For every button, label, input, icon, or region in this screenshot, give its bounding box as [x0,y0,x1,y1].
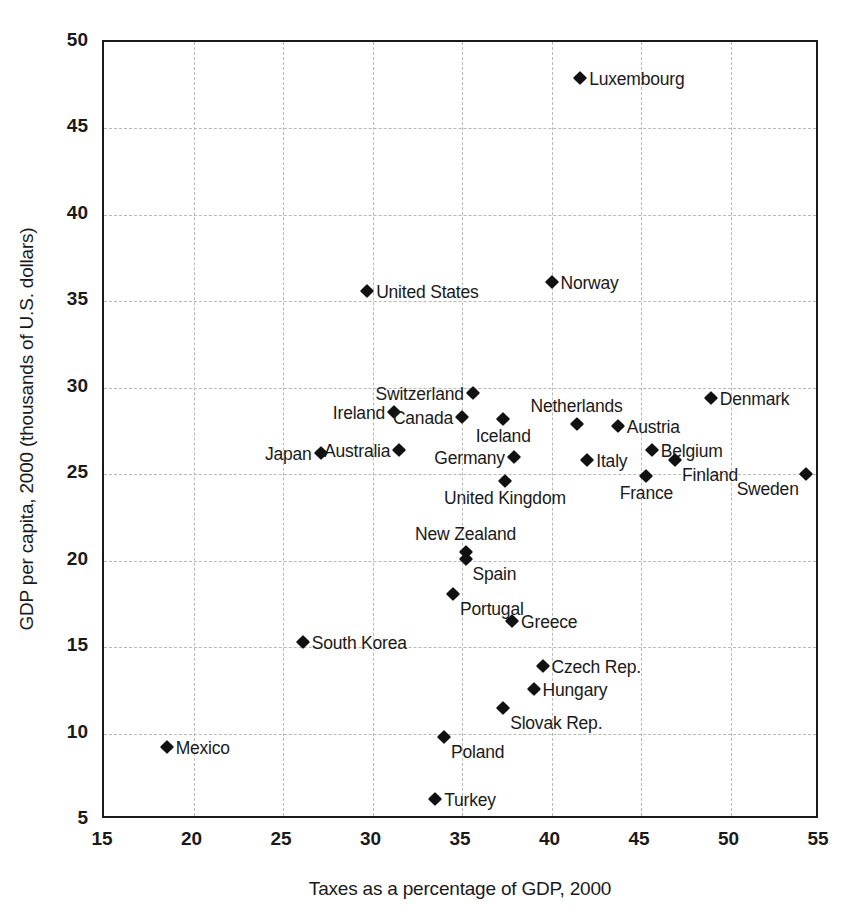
y-tick-label: 5 [44,807,88,829]
gridline-horizontal [104,647,816,648]
data-point-label: Czech Rep. [552,659,641,677]
data-point-label: Denmark [720,391,790,409]
x-tick-label: 30 [346,828,396,850]
y-tick-label: 15 [44,634,88,656]
data-point-label: Austria [627,419,680,437]
x-tick-label: 35 [435,828,485,850]
x-tick-label: 15 [77,828,127,850]
data-point-label: Mexico [176,740,230,758]
data-point-label: Canada [393,410,453,428]
diamond-marker-icon [645,443,659,457]
x-tick-label: 55 [793,828,843,850]
data-point-label: United States [376,284,478,302]
diamond-marker-icon [496,412,510,426]
x-axis-title: Taxes as a percentage of GDP, 2000 [102,878,818,900]
x-tick-label: 25 [256,828,306,850]
y-tick-label: 40 [44,202,88,224]
diamond-marker-icon [535,659,549,673]
plot-area: LuxembourgNorwayUnited StatesDenmarkSwit… [102,40,818,818]
data-point-label: South Korea [312,635,407,653]
data-point-label: France [620,485,673,503]
scatter-plot-figure: GDP per capita, 2000 (thousands of U.S. … [0,0,857,923]
gridline-vertical [552,42,553,816]
data-point-label: Luxembourg [589,71,684,89]
data-point-label: Germany [434,450,505,468]
y-tick-label: 45 [44,115,88,137]
data-point-label: Slovak Rep. [510,715,602,733]
data-point-label: Poland [451,744,504,762]
gridline-horizontal [104,734,816,735]
data-point-label: Sweden [737,481,799,499]
diamond-marker-icon [360,284,374,298]
y-tick-label: 10 [44,721,88,743]
y-tick-label: 20 [44,548,88,570]
x-tick-label: 45 [614,828,664,850]
diamond-marker-icon [496,701,510,715]
data-point-label: Italy [596,453,627,471]
diamond-marker-icon [296,635,310,649]
y-tick-label: 50 [44,29,88,51]
data-point-label: Greece [521,614,577,632]
diamond-marker-icon [507,450,521,464]
diamond-marker-icon [527,682,541,696]
diamond-marker-icon [437,730,451,744]
data-point-label: Ireland [333,405,385,423]
diamond-marker-icon [799,467,813,481]
data-point-label: Netherlands [530,398,622,416]
diamond-marker-icon [160,740,174,754]
diamond-marker-icon [704,391,718,405]
data-point-label: Switzerland [375,386,463,404]
data-point-label: Finland [682,467,738,485]
data-point-label: Turkey [444,792,496,810]
gridline-vertical [194,42,195,816]
y-axis-title: GDP per capita, 2000 (thousands of U.S. … [12,40,42,818]
gridline-horizontal [104,215,816,216]
data-point-label: New Zealand [415,526,516,544]
diamond-marker-icon [573,71,587,85]
y-tick-label: 25 [44,461,88,483]
gridline-vertical [462,42,463,816]
diamond-marker-icon [428,792,442,806]
gridline-vertical [373,42,374,816]
diamond-marker-icon [544,275,558,289]
diamond-marker-icon [466,386,480,400]
diamond-marker-icon [569,417,583,431]
diamond-marker-icon [498,474,512,488]
diamond-marker-icon [580,453,594,467]
diamond-marker-icon [455,410,469,424]
data-point-label: Australia [324,443,390,461]
diamond-marker-icon [611,419,625,433]
diamond-marker-icon [392,443,406,457]
x-tick-label: 20 [167,828,217,850]
data-point-label: Iceland [476,428,531,446]
data-point-label: Hungary [543,682,608,700]
x-tick-label: 50 [704,828,754,850]
diamond-marker-icon [446,586,460,600]
gridline-horizontal [104,128,816,129]
x-tick-label: 40 [525,828,575,850]
y-tick-label: 35 [44,288,88,310]
y-tick-label: 30 [44,375,88,397]
data-point-label: United Kingdom [444,490,566,508]
gridline-vertical [283,42,284,816]
diamond-marker-icon [639,469,653,483]
data-point-label: Japan [265,446,312,464]
data-point-label: Norway [561,275,619,293]
data-point-label: Spain [473,566,517,584]
gridline-vertical [731,42,732,816]
